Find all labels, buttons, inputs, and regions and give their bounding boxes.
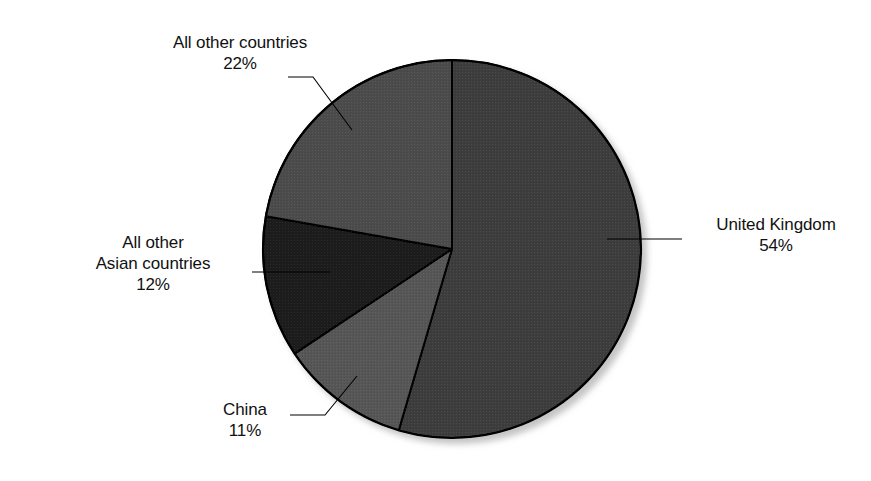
label-united-kingdom-name: United Kingdom	[689, 214, 863, 235]
label-all-other-countries-value: 22%	[140, 53, 340, 74]
label-united-kingdom-value: 54%	[689, 235, 863, 256]
pie-texture-overlay	[264, 61, 640, 437]
label-all-other-asian-countries-value: 12%	[58, 274, 248, 295]
label-all-other-countries: All other countries 22%	[140, 32, 340, 74]
label-all-other-asian-countries: All other Asian countries 12%	[58, 232, 248, 295]
label-china-value: 11%	[202, 420, 288, 441]
pie-slices-group	[263, 60, 641, 438]
label-china: China 11%	[202, 399, 288, 441]
label-china-name: China	[202, 399, 288, 420]
label-all-other-asian-countries-name-line1: All other	[58, 232, 248, 253]
label-all-other-countries-name: All other countries	[140, 32, 340, 53]
label-all-other-asian-countries-name-line2: Asian countries	[58, 253, 248, 274]
pie-chart-figure: All other countries 22% All other Asian …	[0, 0, 871, 481]
label-united-kingdom: United Kingdom 54%	[689, 214, 863, 256]
